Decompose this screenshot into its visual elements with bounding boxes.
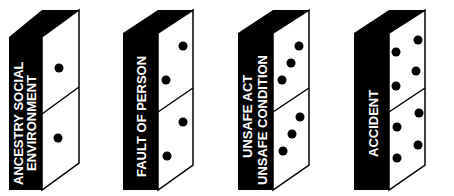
pip bbox=[287, 59, 296, 68]
pip bbox=[278, 76, 287, 85]
pip bbox=[279, 147, 288, 156]
pip bbox=[392, 48, 401, 57]
domino-label-line-1: FAULT OF PERSON bbox=[134, 56, 149, 177]
pip bbox=[392, 82, 401, 91]
pip bbox=[179, 42, 188, 51]
pip bbox=[393, 123, 402, 132]
pip bbox=[414, 141, 423, 150]
domino-3: UNSAFE ACT UNSAFE CONDITION bbox=[238, 10, 309, 190]
pip bbox=[412, 67, 421, 76]
pip bbox=[414, 36, 423, 45]
domino-diagram: ANCESTRY SOCIAL ENVIRONMENT FAULT OF PER… bbox=[0, 0, 454, 196]
domino-label-line-2: ENVIRONMENT bbox=[24, 75, 39, 171]
pip bbox=[393, 154, 402, 163]
domino-label-line-1: UNSAFE ACT bbox=[240, 75, 255, 158]
pip bbox=[296, 113, 305, 122]
pip bbox=[415, 109, 424, 118]
pip bbox=[55, 64, 64, 73]
pip bbox=[163, 152, 172, 161]
pip bbox=[288, 130, 297, 139]
domino-4: ACCIDENT bbox=[354, 10, 425, 190]
domino-label-line-1: ACCIDENT bbox=[366, 90, 381, 157]
pip bbox=[295, 42, 304, 51]
domino-label-line-2: UNSAFE CONDITION bbox=[255, 55, 270, 185]
pip bbox=[54, 134, 63, 143]
pip bbox=[162, 76, 171, 85]
domino-2: FAULT OF PERSON bbox=[123, 10, 193, 190]
domino-1: ANCESTRY SOCIAL ENVIRONMENT bbox=[9, 10, 79, 190]
pip bbox=[179, 118, 188, 127]
